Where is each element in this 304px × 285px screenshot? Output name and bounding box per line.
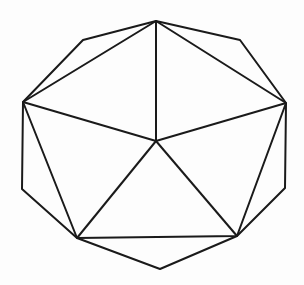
spoke-line	[156, 141, 237, 236]
pentagon-outline	[23, 21, 286, 238]
spoke-line	[23, 102, 156, 141]
diagram-canvas	[0, 0, 304, 285]
spoke-line	[156, 103, 286, 141]
inner-pentagon	[23, 21, 286, 238]
spoke-line	[77, 141, 156, 238]
center-spokes	[23, 21, 286, 238]
decagon-pentagon-diagram	[0, 0, 304, 285]
